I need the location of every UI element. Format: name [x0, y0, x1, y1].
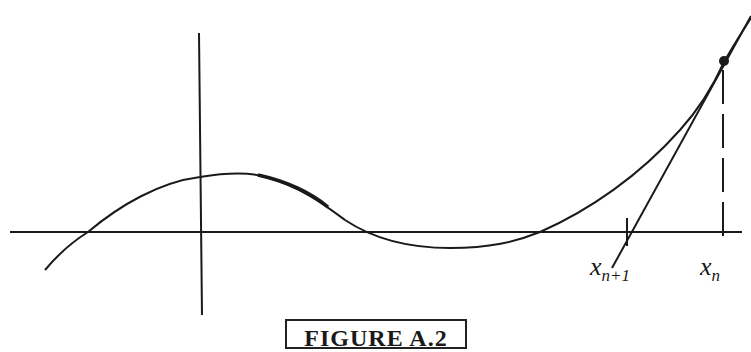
- curve-thick-segment: [258, 175, 328, 207]
- tangent-line: [612, 16, 751, 268]
- y-axis: [199, 33, 202, 315]
- label-x-n: xn: [700, 254, 720, 284]
- figure-caption: FIGURE A.2: [287, 325, 465, 352]
- label-x-next: xn+1: [590, 254, 630, 284]
- point-x-n: [719, 56, 729, 66]
- figure-caption-box: FIGURE A.2: [285, 319, 467, 349]
